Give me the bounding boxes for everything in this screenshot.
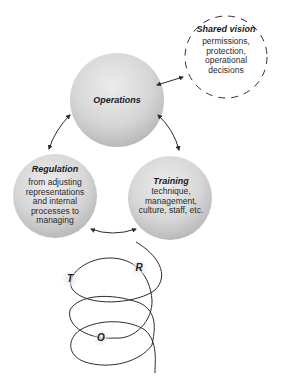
- shared-vision-title: Shared vision: [196, 24, 255, 34]
- helix-label-r: R: [130, 259, 148, 277]
- regulation-node: Regulation from adjusting representation…: [13, 164, 97, 226]
- helix-label-o: O: [92, 329, 110, 347]
- training-line-3: culture, staff, etc.: [139, 206, 204, 216]
- training-title: Training: [153, 176, 188, 186]
- training-node: Training technique, management, culture,…: [128, 176, 214, 216]
- shared-vision-line-4: decisions: [208, 66, 243, 76]
- shared-vision-node: Shared vision permissions, protection, o…: [186, 24, 266, 75]
- arrow-operations-regulation: [49, 115, 70, 149]
- regulation-title: Regulation: [32, 164, 79, 174]
- helix-label-t: T: [61, 270, 79, 288]
- regulation-line-5: managing: [36, 216, 73, 226]
- arrow-regulation-training: [91, 229, 136, 233]
- operations-title: Operations: [93, 95, 141, 105]
- operations-node: Operations: [70, 53, 164, 147]
